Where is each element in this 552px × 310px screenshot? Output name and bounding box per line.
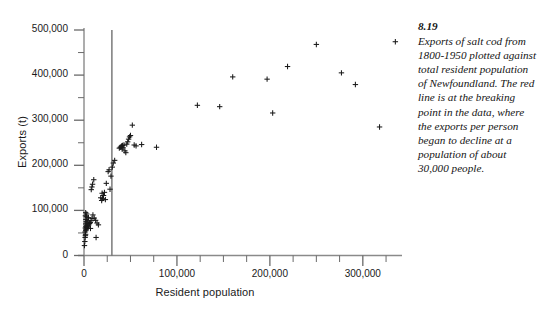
data-point [377, 124, 382, 129]
scatter-figure: 0100,000200,000300,000400,000500,000 010… [0, 0, 410, 310]
figure-caption-text: Exports of salt cod from 1800-1950 plott… [418, 34, 538, 175]
data-point [264, 76, 269, 81]
data-point [104, 181, 109, 186]
figure-caption: 8.19 Exports of salt cod from 1800-1950 … [418, 19, 538, 175]
data-point [270, 110, 275, 115]
data-point [285, 64, 290, 69]
data-point [90, 182, 95, 187]
data-point [108, 173, 113, 178]
x-axis-title: Resident population [0, 286, 410, 298]
data-point [339, 70, 344, 75]
data-point [110, 164, 115, 169]
data-point [130, 122, 135, 127]
data-point [195, 103, 200, 108]
data-point [139, 142, 144, 147]
x-tick-label: 200,000 [235, 268, 305, 279]
y-tick-label: 100,000 [8, 203, 68, 214]
data-points-group [82, 39, 398, 248]
x-tick-label: 100,000 [142, 268, 212, 279]
data-point [314, 42, 319, 47]
x-tick-label: 300,000 [328, 268, 398, 279]
data-point [91, 177, 96, 182]
data-point [230, 74, 235, 79]
x-tick-label: 0 [49, 268, 119, 279]
data-point [90, 212, 95, 217]
scatter-plot-canvas [0, 0, 410, 310]
data-point [89, 187, 94, 192]
data-point [93, 235, 98, 240]
data-point [89, 184, 94, 189]
y-ticks-group [74, 30, 84, 256]
y-tick-label: 400,000 [8, 68, 68, 79]
y-tick-label: 500,000 [8, 23, 68, 34]
y-tick-label: 0 [8, 249, 68, 260]
y-axis-title: Exports (t) [16, 82, 28, 202]
data-point [393, 39, 398, 44]
data-point [217, 104, 222, 109]
figure-caption-number: 8.19 [418, 19, 538, 33]
x-ticks-group [84, 256, 386, 267]
data-point [154, 145, 159, 150]
data-point [353, 82, 358, 87]
